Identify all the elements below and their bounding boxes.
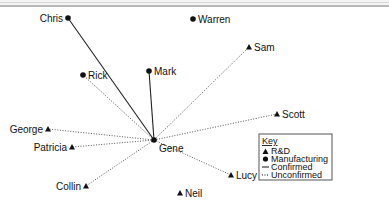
node-scott: Scott [274,109,305,120]
node-label: Rick [88,70,108,81]
node-patricia: Patricia [34,142,75,153]
node-label: Warren [198,14,230,25]
circle-icon [263,156,268,161]
edge-gene-rick [83,75,154,140]
edge-gene-chris [68,18,154,140]
node-neil: Neil [177,188,202,199]
edges [48,18,277,186]
node-george: George [10,124,51,135]
triangle-icon [228,172,234,178]
edge-gene-george [48,129,154,140]
node-label: Neil [185,188,202,199]
node-label: Chris [40,13,63,24]
edge-gene-collin [86,140,154,186]
node-label: Patricia [34,142,68,153]
node-lucy: Lucy [228,170,257,181]
triangle-icon [246,44,252,50]
node-label: George [10,124,44,135]
node-collin: Collin [56,181,89,192]
circle-icon [80,72,86,78]
triangle-icon [177,190,183,196]
circle-icon [146,68,152,74]
node-label: Lucy [236,170,257,181]
node-label: Sam [254,42,275,53]
circle-icon [65,15,71,21]
node-rick: Rick [80,70,108,81]
node-sam: Sam [246,42,275,53]
node-label: Gene [159,143,184,154]
node-label: Mark [154,66,177,77]
network-diagram: ChrisWarrenSamRickMarkScottGeorgePatrici… [0,0,389,211]
node-gene: Gene [151,137,184,154]
triangle-icon [83,183,89,189]
legend-item-unconfirmed: Unconfirmed [271,170,322,180]
legend: Key R&D Manufacturing Confirmed Unconfir… [259,134,332,180]
circle-icon [151,137,157,143]
node-warren: Warren [190,14,230,25]
edge-gene-mark [149,71,154,140]
edge-gene-sam [154,47,249,140]
node-chris: Chris [40,13,71,24]
legend-title: Key [262,136,278,146]
node-mark: Mark [146,66,177,77]
triangle-icon [69,144,75,150]
node-label: Collin [56,181,81,192]
edge-gene-patricia [72,140,154,147]
triangle-icon [274,111,280,117]
circle-icon [190,16,196,22]
node-label: Scott [282,109,305,120]
